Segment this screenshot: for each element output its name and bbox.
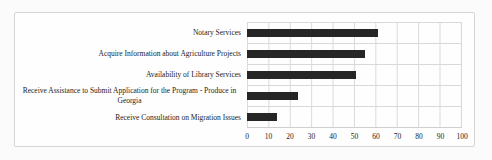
category-label: Notary Services xyxy=(193,28,241,38)
x-tick-label: 60 xyxy=(372,132,380,141)
x-tick-label: 80 xyxy=(415,132,423,141)
x-tick-label: 40 xyxy=(329,132,337,141)
bar-row xyxy=(247,85,461,106)
label-row: Availability of Library Services xyxy=(18,64,245,85)
x-tick-label: 30 xyxy=(308,132,316,141)
bar-row xyxy=(247,106,461,127)
category-label: Acquire Information about Agriculture Pr… xyxy=(99,49,241,59)
bar xyxy=(247,29,378,37)
x-tick-label: 70 xyxy=(394,132,402,141)
bar-row xyxy=(247,43,461,64)
bar-row xyxy=(247,64,461,85)
chart-screenshot: Notary ServicesAcquire Information about… xyxy=(0,0,492,160)
x-tick-label: 90 xyxy=(437,132,445,141)
bar-row xyxy=(247,22,461,43)
category-label: Availability of Library Services xyxy=(146,70,241,80)
bar xyxy=(247,113,277,121)
label-row: Acquire Information about Agriculture Pr… xyxy=(18,43,245,64)
label-row: Receive Consultation on Migration Issues xyxy=(18,107,245,128)
label-row: Notary Services xyxy=(18,22,245,43)
category-label: Receive Assistance to Submit Application… xyxy=(18,86,241,106)
bar xyxy=(247,71,356,79)
plot-area xyxy=(247,22,462,128)
chart-frame: Notary ServicesAcquire Information about… xyxy=(14,12,475,147)
bar xyxy=(247,92,298,100)
label-row: Receive Assistance to Submit Application… xyxy=(18,86,245,107)
x-axis-ticks: 0102030405060708090100 xyxy=(247,132,462,144)
bar xyxy=(247,50,365,58)
x-tick-label: 100 xyxy=(456,132,467,141)
x-tick-label: 0 xyxy=(245,132,249,141)
x-tick-label: 10 xyxy=(265,132,273,141)
category-label: Receive Consultation on Migration Issues xyxy=(115,113,241,123)
x-tick-label: 20 xyxy=(286,132,294,141)
category-labels: Notary ServicesAcquire Information about… xyxy=(18,22,245,128)
x-tick-label: 50 xyxy=(351,132,359,141)
